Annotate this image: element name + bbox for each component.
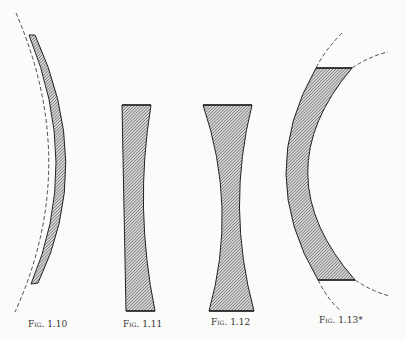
lens-body (29, 35, 66, 284)
figure-caption-1-12: Fig. 1.12 (211, 317, 250, 327)
dashed-inner-arc-bottom (355, 280, 390, 296)
figure-1-12-double-concave-lens (203, 105, 254, 311)
figure-1-13-thick-meniscus-lens (286, 33, 390, 310)
lens-body (203, 105, 254, 311)
figure-1-10-meniscus-lens (15, 13, 66, 312)
figure-caption-1-11: Fig. 1.11 (123, 319, 162, 329)
dashed-outer-arc-bottom (318, 280, 340, 310)
lens-body (286, 68, 355, 280)
lens-figures-canvas (0, 0, 406, 341)
dashed-outer-arc-top (316, 33, 342, 68)
figure-1-11-plano-concave-lens (122, 105, 155, 311)
figure-caption-1-13: Fig. 1.13* (319, 315, 363, 325)
figure-caption-1-10: Fig. 1.10 (28, 319, 67, 329)
lens-body (122, 105, 155, 311)
dashed-inner-arc-top (352, 52, 388, 68)
